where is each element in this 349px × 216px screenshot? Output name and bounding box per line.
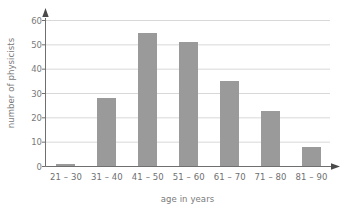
bar [97,98,116,166]
x-axis-tick-label: 71 – 80 [255,172,287,182]
x-axis-tick-label: 41 – 50 [132,172,164,182]
bar [179,42,198,166]
y-axis-tick-marks [42,21,46,167]
x-axis-tick-label: 81 – 90 [296,172,328,182]
y-axis-arrow-icon [42,8,48,17]
x-axis-tick-label: 61 – 70 [214,172,246,182]
plot-area [0,0,349,216]
x-axis-tick-label: 21 – 30 [50,172,82,182]
bar [302,147,321,166]
x-axis-title: age in years [45,194,330,204]
bar [261,111,280,167]
bar-chart: number of physicists 0 10 20 30 40 50 60… [0,0,349,216]
bar [56,164,75,166]
x-axis-tick-label: 31 – 40 [91,172,123,182]
x-axis-arrow-icon [331,163,340,169]
bar [220,81,239,166]
x-axis-tick-label: 51 – 60 [173,172,205,182]
bar [138,33,157,167]
